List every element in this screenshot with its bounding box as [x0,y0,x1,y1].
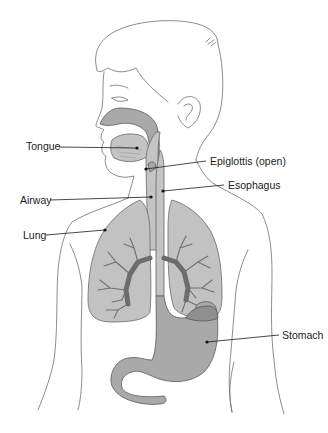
lung-leader-line [46,230,105,235]
label-tongue-text: Tongue [26,140,61,152]
stomach-marker [205,340,208,343]
left-lung [88,200,151,322]
esophagus-leader-line [163,185,224,191]
label-stomach: Stomach [205,329,323,344]
label-stomach-text: Stomach [282,329,324,341]
right-lung [164,200,222,318]
esophagus-marker [161,189,164,192]
label-airway-text: Airway [20,194,52,206]
airway-leader-line [50,197,151,200]
label-esophagus: Esophagus [161,179,280,193]
airway-marker [149,195,152,198]
label-epiglottis-text: Epiglottis (open) [210,155,286,167]
lung-marker [103,228,106,231]
anatomy-diagram: Tongue Epiglottis (open) Esophagus Airwa… [0,0,328,433]
epiglottis-marker [144,167,147,170]
label-esophagus-text: Esophagus [228,179,281,191]
esophagus-tube [156,150,164,296]
label-lung-text: Lung [23,229,47,241]
label-epiglottis: Epiglottis (open) [144,155,285,171]
tongue-marker [135,146,138,149]
